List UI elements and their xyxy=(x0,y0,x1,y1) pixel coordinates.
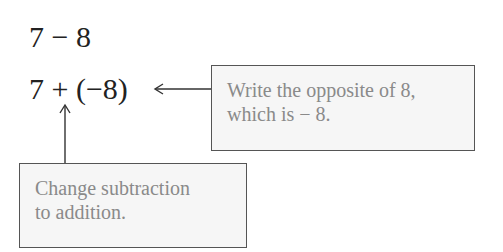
callout-change-operation: Change subtraction to addition. xyxy=(19,163,247,248)
callout-opposite: Write the opposite of 8, which is − 8. xyxy=(211,65,475,151)
